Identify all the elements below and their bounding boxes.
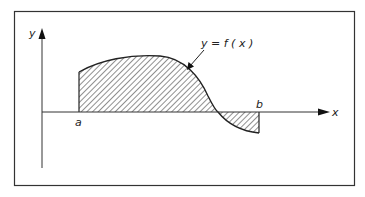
- lower-bound-label: a: [75, 116, 82, 129]
- area-under-curve-diagram: y x a b y = f ( x ): [0, 0, 365, 197]
- x-axis-label: x: [331, 106, 339, 119]
- negative-area-region: [218, 112, 259, 133]
- upper-bound-label: b: [256, 98, 263, 111]
- curve-label: y = f ( x ): [200, 37, 253, 50]
- y-axis-label: y: [28, 27, 36, 40]
- positive-area-region: [79, 56, 218, 112]
- y-axis-arrow-icon: [39, 28, 46, 39]
- x-axis-arrow-icon: [318, 109, 330, 116]
- curve-label-pointer: [190, 50, 204, 66]
